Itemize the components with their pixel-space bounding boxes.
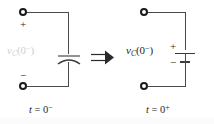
right-caption-superscript: + (165, 103, 170, 112)
left-top-terminal (19, 8, 27, 16)
left-caption: t = 0− (29, 103, 53, 115)
left-bottom-terminal (19, 82, 27, 90)
left-voltage-close-paren: ) (31, 44, 35, 56)
right-voltage-close-paren: ) (150, 44, 154, 56)
source-plus-sign: + (168, 41, 178, 52)
left-plus-sign: + (18, 19, 28, 30)
right-caption: t = 0+ (146, 103, 170, 115)
bottom-band (0, 117, 214, 124)
source-minus-sign: − (168, 57, 178, 68)
right-top-terminal (140, 8, 148, 16)
left-vertical-wire-top (68, 12, 69, 54)
left-bottom-wire (27, 86, 69, 87)
implies-double-arrow-icon (90, 47, 116, 69)
left-caption-superscript: − (48, 103, 53, 112)
left-circuit-group: + − vC(0−) t = 0− (0, 0, 100, 124)
right-circuit-group: + − vC(0−) t = 0+ (114, 0, 214, 124)
right-vertical-wire-mid (185, 53, 186, 62)
right-bottom-terminal (140, 82, 148, 90)
circuit-equivalence-figure: + − vC(0−) t = 0− (0, 0, 214, 124)
left-top-wire (27, 12, 69, 13)
left-minus-sign: − (18, 70, 28, 81)
right-vertical-wire-top (185, 12, 186, 50)
capacitor-curved-plate-icon (56, 50, 82, 68)
left-voltage-label: vC(0−) (7, 45, 34, 58)
right-bottom-wire (148, 86, 186, 87)
right-voltage-label: vC(0−) (126, 45, 153, 58)
right-vertical-wire-bottom (185, 62, 186, 86)
right-top-wire (148, 12, 186, 13)
left-vertical-wire-bottom (68, 62, 69, 86)
